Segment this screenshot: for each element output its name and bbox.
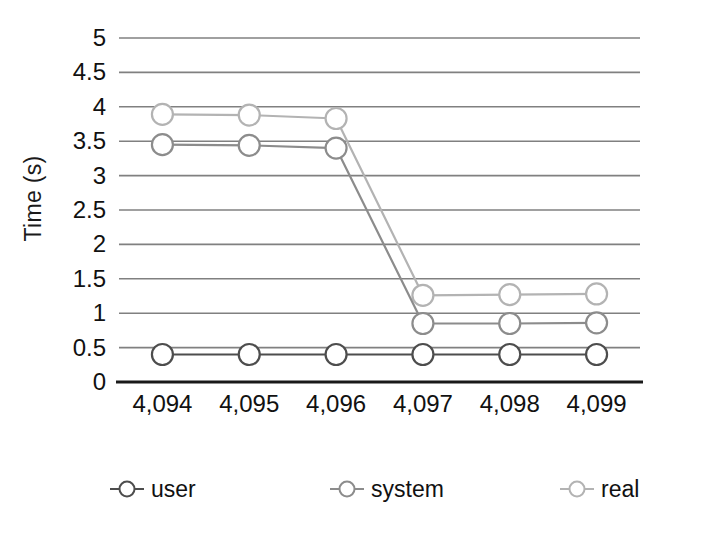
- legend-marker-icon: [330, 478, 364, 500]
- legend-item-real[interactable]: real: [560, 472, 639, 506]
- legend-label: user: [151, 478, 196, 501]
- legend-item-user[interactable]: user: [110, 472, 196, 506]
- legend-circle: [570, 482, 585, 497]
- legend-marker-icon: [110, 478, 144, 500]
- legend-marker-icon: [560, 478, 594, 500]
- legend-circle: [340, 482, 355, 497]
- legend-label: real: [601, 478, 639, 501]
- legend-item-system[interactable]: system: [330, 472, 444, 506]
- x-axis-tick-labels: 4,0944,0954,0964,0974,0984,099: [0, 0, 704, 539]
- legend-circle: [120, 482, 135, 497]
- legend-label: system: [371, 478, 444, 501]
- x-axis-tick-label: 4,099: [542, 392, 652, 416]
- line-chart: Time (s) 54.543.532.521.510.50 4,0944,09…: [0, 0, 704, 539]
- chart-legend: usersystemreal: [0, 472, 704, 516]
